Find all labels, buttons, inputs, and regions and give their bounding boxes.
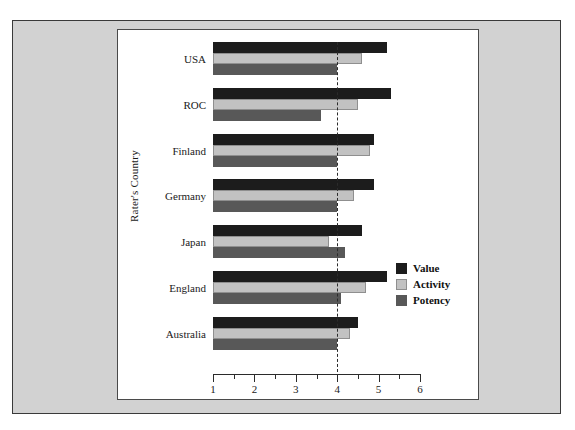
bar-group: ROC <box>118 88 480 121</box>
x-tick-label-3: 3 <box>284 383 308 395</box>
category-label-australia: Australia <box>118 328 206 340</box>
bar-activity-finland <box>213 145 370 156</box>
legend-swatch-potency <box>396 295 407 306</box>
bar-value-australia <box>213 317 358 328</box>
x-tick-label-2: 2 <box>242 383 266 395</box>
x-tick-label-4: 4 <box>325 383 349 395</box>
x-tick-minor <box>234 374 235 379</box>
x-tick-major <box>379 374 380 382</box>
x-tick-minor <box>275 374 276 379</box>
plot-area: USAROCFinlandGermanyJapanEnglandAustrali… <box>118 30 480 401</box>
legend-item-value: Value <box>396 261 450 275</box>
bar-potency-england <box>213 293 341 304</box>
legend-item-potency: Potency <box>396 293 450 307</box>
x-tick-label-1: 1 <box>201 383 225 395</box>
bar-activity-england <box>213 282 366 293</box>
x-tick-major <box>213 374 214 382</box>
legend-swatch-activity <box>396 279 407 290</box>
bar-activity-usa <box>213 53 362 64</box>
category-label-finland: Finland <box>118 145 206 157</box>
x-tick-minor <box>317 374 318 379</box>
chart-screenshot: Rater's Country USAROCFinlandGermanyJapa… <box>0 0 575 430</box>
category-label-roc: ROC <box>118 99 206 111</box>
x-tick-minor <box>358 374 359 379</box>
bar-potency-germany <box>213 201 337 212</box>
bar-value-roc <box>213 88 391 99</box>
legend-label-potency: Potency <box>413 294 450 306</box>
bar-group: Australia <box>118 317 480 350</box>
chart-card: Rater's Country USAROCFinlandGermanyJapa… <box>12 20 561 414</box>
bar-group: Germany <box>118 179 480 212</box>
bar-value-usa <box>213 42 387 53</box>
legend-item-activity: Activity <box>396 277 450 291</box>
bar-potency-finland <box>213 156 337 167</box>
bar-potency-japan <box>213 247 345 258</box>
bar-group: USA <box>118 42 480 75</box>
x-tick-major <box>420 374 421 382</box>
bar-value-england <box>213 271 387 282</box>
bar-value-finland <box>213 134 374 145</box>
x-tick-major <box>337 374 338 382</box>
bar-activity-australia <box>213 328 350 339</box>
bar-potency-usa <box>213 64 337 75</box>
bar-activity-germany <box>213 190 354 201</box>
chart-legend: ValueActivityPotency <box>396 261 450 309</box>
bar-value-germany <box>213 179 374 190</box>
category-label-japan: Japan <box>118 236 206 248</box>
plot-panel: Rater's Country USAROCFinlandGermanyJapa… <box>117 29 479 400</box>
legend-swatch-value <box>396 263 407 274</box>
bar-value-japan <box>213 225 362 236</box>
category-label-germany: Germany <box>118 190 206 202</box>
bar-potency-roc <box>213 110 321 121</box>
x-tick-major <box>254 374 255 382</box>
category-label-england: England <box>118 282 206 294</box>
bar-group: Finland <box>118 134 480 167</box>
bar-activity-japan <box>213 236 329 247</box>
category-label-usa: USA <box>118 53 206 65</box>
x-tick-minor <box>399 374 400 379</box>
x-tick-label-5: 5 <box>367 383 391 395</box>
x-tick-major <box>296 374 297 382</box>
x-tick-label-6: 6 <box>408 383 432 395</box>
reference-line <box>337 42 338 372</box>
legend-label-value: Value <box>413 262 440 274</box>
bar-group: Japan <box>118 225 480 258</box>
bar-potency-australia <box>213 339 337 350</box>
legend-label-activity: Activity <box>413 278 450 290</box>
bar-activity-roc <box>213 99 358 110</box>
